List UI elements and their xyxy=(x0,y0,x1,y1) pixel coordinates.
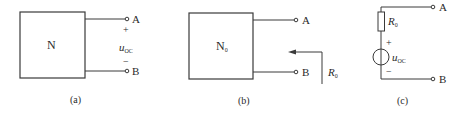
figure-b: N0 A B R0 (b) xyxy=(189,13,338,107)
terminal-a-label: A xyxy=(439,1,447,13)
terminal-a-label: A xyxy=(132,13,140,25)
resistance-r0-label: R0 xyxy=(327,66,338,79)
voltage-uoc-label: uOC xyxy=(119,41,133,54)
resistor-r0-icon xyxy=(378,12,385,31)
terminal-b-label: B xyxy=(302,66,309,78)
terminal-a-icon xyxy=(294,18,298,22)
minus-sign: − xyxy=(123,56,129,67)
arrowhead-icon xyxy=(288,50,296,55)
caption-b: (b) xyxy=(238,95,250,107)
caption-a: (a) xyxy=(70,94,81,106)
minus-sign: − xyxy=(386,66,392,77)
figure-c: A B R0 + − uOC (c) xyxy=(373,1,447,107)
caption-c: (c) xyxy=(397,95,408,107)
terminal-b-icon xyxy=(294,70,298,74)
resistor-r0-label: R0 xyxy=(387,15,398,28)
plus-sign: + xyxy=(386,37,392,48)
terminal-b-icon xyxy=(431,77,435,81)
figure-a: N A B + − uOC (a) xyxy=(20,12,140,106)
network-label: N0 xyxy=(216,39,228,53)
plus-sign: + xyxy=(123,24,129,35)
terminal-a-icon xyxy=(431,5,435,9)
terminal-a-icon xyxy=(125,17,129,21)
circuit-diagram: N A B + − uOC (a) N0 A B R0 (b) xyxy=(0,0,461,115)
network-label: N xyxy=(47,38,56,52)
terminal-b-label: B xyxy=(439,73,446,85)
terminal-b-icon xyxy=(125,69,129,73)
source-uoc-label: uOC xyxy=(392,51,406,64)
terminal-b-label: B xyxy=(132,65,139,77)
terminal-a-label: A xyxy=(302,14,310,26)
